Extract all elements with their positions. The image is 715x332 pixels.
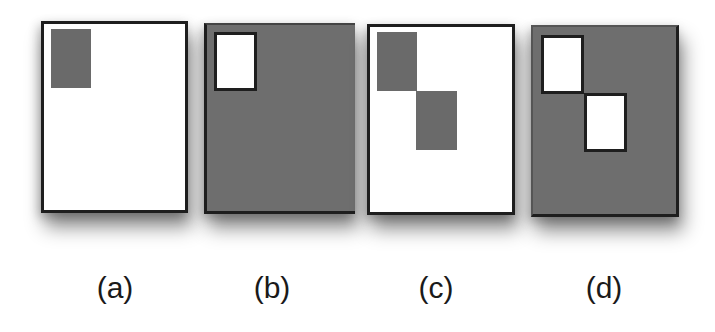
panel-c-shaded-box-1: [377, 32, 417, 91]
figure: (a) (b) (c) (d): [0, 0, 715, 332]
panel-c-shaded-box-2: [416, 91, 457, 150]
panel-b-label: (b): [222, 270, 322, 306]
panel-a-label: (a): [65, 270, 165, 306]
panel-a-shaded-box: [51, 29, 91, 88]
panel-d-label: (d): [554, 270, 654, 306]
panel-a: [41, 21, 188, 213]
panel-b: [204, 23, 355, 214]
panel-d: [531, 25, 679, 217]
panel-d-unshaded-box-2: [584, 93, 627, 152]
panel-c: [367, 24, 515, 215]
panel-d-unshaded-box-1: [541, 35, 584, 94]
panel-b-unshaded-box: [214, 32, 257, 91]
panel-c-label: (c): [386, 270, 486, 306]
